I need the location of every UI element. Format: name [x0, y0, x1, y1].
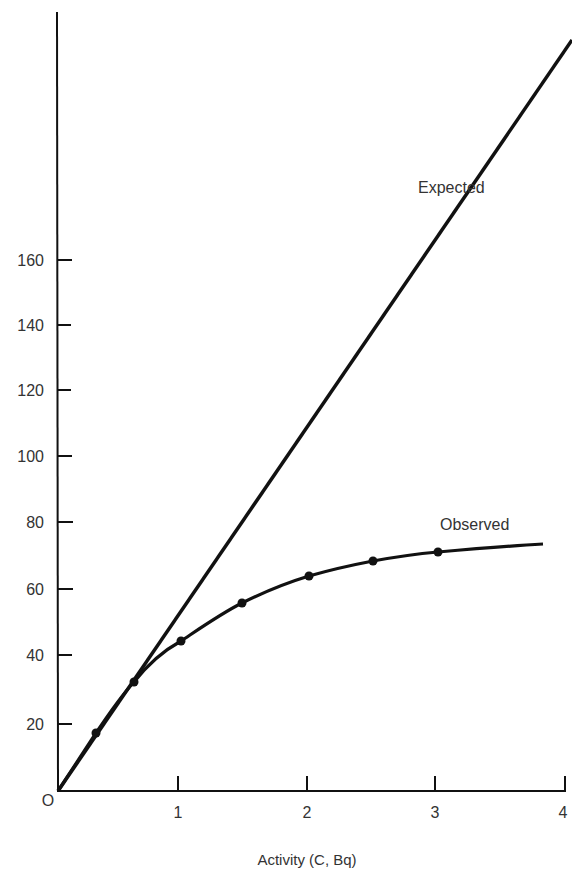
y-tick-label: 100: [17, 448, 44, 465]
y-tick-label: 160: [17, 252, 44, 269]
y-axis: [57, 12, 58, 791]
x-axis-title: Activity (C, Bq): [257, 851, 356, 868]
x-tick-label: 4: [559, 804, 568, 821]
y-tick-label: 40: [26, 647, 44, 664]
x-tick-label: 3: [431, 804, 440, 821]
x-ticks: [178, 776, 565, 791]
y-tick-label: 60: [26, 581, 44, 598]
y-tick-label: 20: [26, 716, 44, 733]
y-ticks: [58, 260, 73, 724]
data-point: [92, 729, 101, 738]
data-point: [369, 557, 378, 566]
x-tick-label: 1: [174, 804, 183, 821]
data-point: [177, 637, 186, 646]
x-tick-label: 2: [303, 804, 312, 821]
data-point: [434, 548, 443, 557]
expected-label: Expected: [418, 179, 485, 196]
data-point: [130, 678, 139, 687]
origin-label: O: [42, 792, 54, 809]
observed-markers: [92, 548, 443, 738]
y-tick-labels: 20 40 60 80 100 120 140 160: [17, 252, 44, 733]
data-point: [238, 599, 247, 608]
data-point: [305, 572, 314, 581]
chart-canvas: 20 40 60 80 100 120 140 160 1 2 3 4 O Ac…: [0, 0, 572, 871]
y-tick-label: 80: [26, 514, 44, 531]
y-tick-label: 120: [17, 382, 44, 399]
y-tick-label: 140: [17, 317, 44, 334]
observed-label: Observed: [440, 516, 509, 533]
observed-curve: [58, 544, 543, 791]
x-tick-labels: 1 2 3 4: [174, 804, 568, 821]
